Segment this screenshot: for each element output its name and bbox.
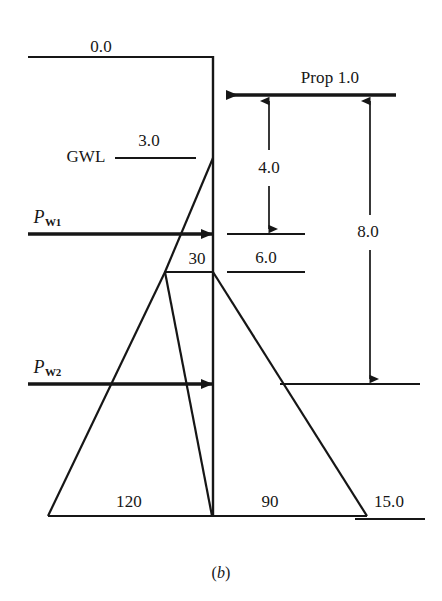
label-level-6: 6.0 — [255, 248, 277, 268]
label-force-pw2-subscript: W2 — [45, 366, 61, 378]
caption-letter: b — [217, 564, 225, 581]
label-gwl: GWL — [66, 147, 105, 167]
label-gwl-depth: 3.0 — [138, 131, 160, 151]
caption-close-paren: ) — [225, 564, 230, 581]
label-dim-4: 4.0 — [258, 158, 280, 178]
passive-pressure-slope — [213, 272, 367, 516]
lower-pressure-right-slope — [165, 272, 212, 516]
label-ground-level: 0.0 — [90, 37, 112, 57]
label-dim-8: 8.0 — [357, 222, 379, 242]
label-force-pw2-symbol: P — [33, 357, 44, 377]
label-force-pw1-subscript: W1 — [45, 216, 61, 228]
label-pressure-30: 30 — [188, 249, 205, 269]
lower-pressure-left-slope — [48, 272, 165, 516]
figure-caption: (b) — [212, 564, 231, 582]
label-force-pw2: PW2 — [33, 357, 60, 378]
label-level-15: 15.0 — [374, 492, 404, 512]
label-force-pw1: PW1 — [33, 207, 60, 228]
figure-container: 0.0 Prop 1.0 GWL 3.0 PW1 4.0 8.0 30 6.0 … — [0, 0, 442, 601]
label-force-pw1-symbol: P — [33, 207, 44, 227]
label-prop: Prop 1.0 — [301, 68, 359, 88]
label-pressure-120: 120 — [116, 492, 142, 512]
label-pressure-90: 90 — [261, 492, 278, 512]
